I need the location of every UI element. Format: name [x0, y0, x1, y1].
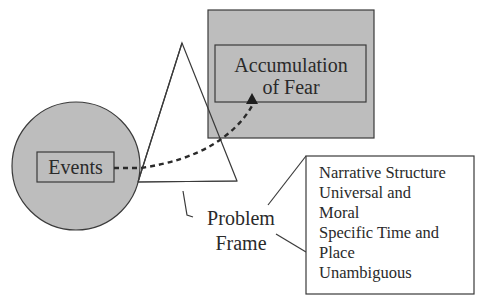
attribute-line: Narrative Structure	[319, 163, 446, 182]
attribute-line: Moral	[319, 203, 360, 222]
problem-frame-label-line1: Problem	[207, 207, 275, 229]
events-label: Events	[48, 156, 103, 178]
triangle-edge-overlay	[138, 181, 237, 182]
attribute-line: Unambiguous	[319, 263, 412, 282]
accumulation-label-line1: Accumulation	[234, 54, 347, 76]
diagram-canvas: Accumulation of Fear Events Problem Fram…	[0, 0, 484, 308]
triangle-left-edge-overlay	[138, 43, 182, 182]
problem-frame-bracket	[183, 191, 193, 217]
attribute-line: Specific Time and	[319, 223, 440, 242]
callout-line-top	[268, 156, 306, 205]
attribute-line: Place	[319, 243, 355, 262]
accumulation-label-line2: of Fear	[262, 76, 320, 98]
problem-frame-label-line2: Frame	[215, 232, 266, 254]
callout-line-bottom	[276, 234, 306, 252]
attribute-line: Universal and	[319, 183, 412, 202]
